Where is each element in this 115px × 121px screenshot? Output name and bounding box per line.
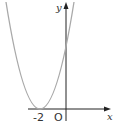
y-axis-arrow-icon [64, 2, 69, 9]
tick-label-neg-two: -2 [33, 111, 44, 121]
graph: y x -2 O [0, 0, 115, 121]
origin-label: O [54, 111, 63, 121]
x-axis-label: x [107, 111, 113, 121]
y-axis-label: y [55, 2, 62, 13]
parabola-curve [6, 2, 74, 109]
